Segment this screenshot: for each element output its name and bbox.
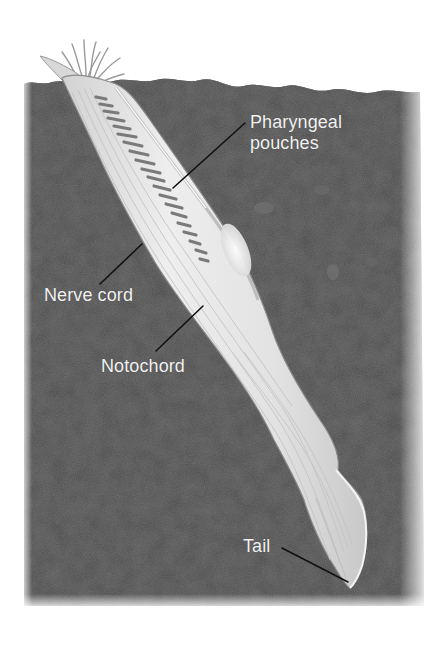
label-line: Notochord [101, 356, 185, 377]
label-pharyngeal-pouches: Pharyngeal pouches [250, 112, 342, 154]
lancelet-diagram: Pharyngeal pouches Nerve cord Notochord … [0, 0, 444, 646]
label-notochord: Notochord [101, 356, 185, 377]
label-nerve-cord: Nerve cord [44, 285, 133, 306]
label-line: Nerve cord [44, 285, 133, 306]
label-line: Pharyngeal [250, 112, 342, 133]
label-tail: Tail [243, 536, 270, 557]
label-line: pouches [250, 133, 342, 154]
diagram-illustration [0, 0, 444, 646]
label-line: Tail [243, 536, 270, 557]
